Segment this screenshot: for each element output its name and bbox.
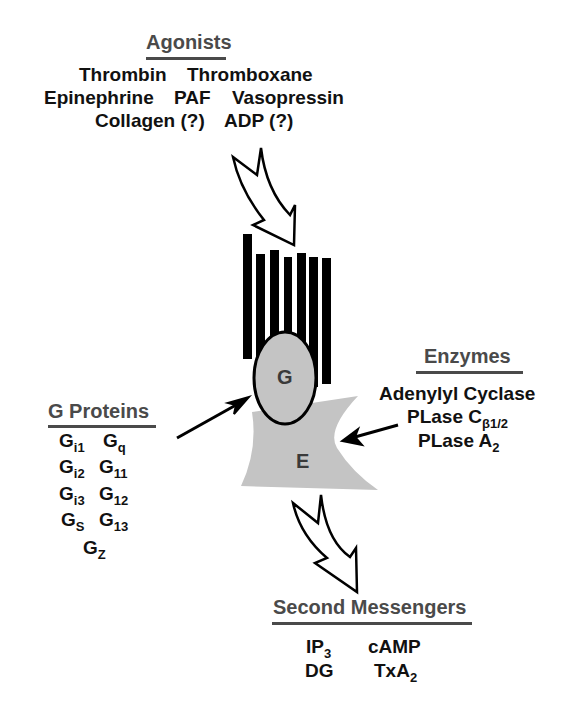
e-label: E: [296, 450, 309, 473]
messenger-arrow-icon: [293, 495, 357, 592]
second-messengers-underline: [272, 622, 472, 625]
g-protein-g12: G12: [99, 483, 128, 505]
g-protein-g13: G13: [99, 509, 128, 531]
g-protein-gs: GS: [61, 509, 84, 531]
g-protein-gq: Gq: [103, 430, 126, 452]
agonist-collagen: Collagen (?): [95, 110, 205, 132]
g-protein-gi1: Gi1: [59, 430, 85, 452]
agonists-title: Agonists: [146, 31, 232, 54]
g-proteins-underline: [48, 425, 156, 428]
g-protein-gi3: Gi3: [59, 483, 85, 505]
agonist-paf: PAF: [174, 87, 211, 109]
enzyme-adenylyl-cyclase: Adenylyl Cyclase: [379, 383, 535, 405]
messenger-camp: cAMP: [368, 636, 421, 658]
agonist-arrow-icon: [233, 148, 295, 245]
agonists-underline: [146, 57, 226, 60]
agonist-adp: ADP (?): [224, 110, 293, 132]
enzymes-title: Enzymes: [424, 345, 511, 368]
g-protein-gz: GZ: [83, 537, 106, 559]
agonist-vasopressin: Vasopressin: [232, 87, 344, 109]
second-messengers-title: Second Messengers: [273, 596, 466, 619]
agonist-thrombin: Thrombin: [79, 64, 167, 86]
agonist-epinephrine: Epinephrine: [44, 87, 154, 109]
messenger-ip3: IP3: [306, 636, 331, 658]
enzyme-plase-c: PLase Cβ1/2: [407, 406, 508, 428]
enzyme-plase-a2: PLase A2: [418, 430, 500, 452]
g-proteins-title: G Proteins: [48, 400, 149, 423]
g-label: G: [277, 366, 293, 389]
agonist-thromboxane: Thromboxane: [187, 64, 313, 86]
g-protein-arrow-icon: [228, 397, 249, 414]
messenger-dg: DG: [305, 660, 334, 682]
messenger-txa2: TxA2: [374, 660, 417, 682]
enzymes-underline: [416, 371, 523, 374]
g-protein-g11: G11: [99, 456, 128, 478]
g-protein-gi2: Gi2: [59, 456, 85, 478]
